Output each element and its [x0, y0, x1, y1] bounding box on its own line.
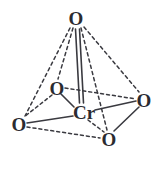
bond-cr-otop-line-b	[80, 29, 84, 103]
edge-oleft-oright-dashed	[65, 88, 136, 99]
bond-cr-otop-line-a	[76, 29, 80, 103]
atom-label-cr-center: Cr	[73, 103, 95, 122]
edge-ofarleft-obottom-dashed	[27, 127, 100, 138]
chemical-structure-figure: O O O O O Cr	[0, 0, 157, 169]
atom-label-o-right: O	[137, 91, 152, 110]
atom-label-o-far-left: O	[12, 115, 27, 134]
atom-label-o-top: O	[69, 9, 84, 28]
bond-cr-ofarleft-line	[27, 116, 73, 123]
edge-oleft-ofarleft-dashed	[24, 95, 52, 117]
atom-label-o-bottom: O	[102, 130, 117, 149]
edge-otop-oright-dashed	[84, 27, 139, 92]
atom-label-o-left: O	[50, 79, 65, 98]
edge-otop-ofarleft-dashed	[25, 28, 70, 116]
edge-obottom-oright-line	[114, 107, 139, 131]
